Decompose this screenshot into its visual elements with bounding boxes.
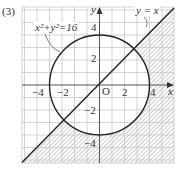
line-label-leader xyxy=(144,17,147,27)
y-axis-arrow-icon xyxy=(97,7,103,14)
x-tick-label: 2 xyxy=(122,87,128,98)
y-tick-label: −2 xyxy=(84,105,96,116)
x-tick-label: −2 xyxy=(57,87,69,98)
circle-equation-label: x²+y²=16 xyxy=(34,22,78,33)
y-tick-label: −4 xyxy=(84,138,96,149)
x-axis-label: x xyxy=(168,86,173,97)
circle-label-leader xyxy=(45,34,60,52)
y-axis-label: y xyxy=(91,4,96,15)
x-tick-label: 4 xyxy=(150,87,156,98)
y-tick-label: 4 xyxy=(91,22,97,33)
problem-number: (3) xyxy=(2,5,15,17)
origin-label: O xyxy=(102,86,110,97)
x-tick-label: −4 xyxy=(32,87,44,98)
y-tick-label: 2 xyxy=(91,53,97,64)
line-equation-label: y = x xyxy=(135,5,160,16)
